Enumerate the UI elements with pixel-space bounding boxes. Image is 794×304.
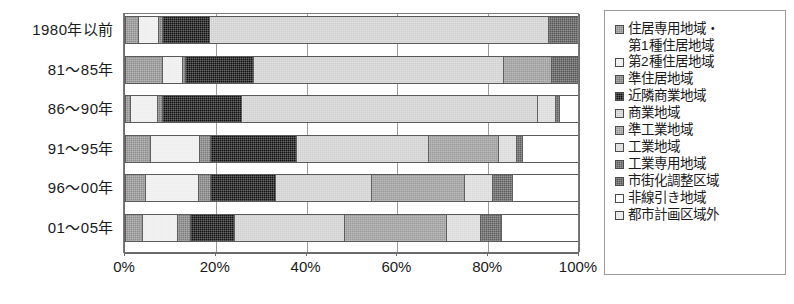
legend-item[interactable]: 住居専用地域・第1種住居地域 — [615, 21, 779, 54]
bar-segment[interactable] — [142, 215, 177, 241]
legend-swatch-p9 — [615, 194, 624, 203]
bar-segment[interactable] — [464, 175, 492, 201]
bar-segment[interactable] — [512, 175, 578, 201]
x-axis-tick — [215, 252, 216, 256]
legend-swatch-p4 — [615, 109, 624, 118]
bar-segment[interactable] — [130, 96, 157, 122]
legend-label: 都市計画区域外 — [628, 207, 719, 223]
bar-segment[interactable] — [480, 215, 501, 241]
bar-segment[interactable] — [548, 17, 578, 43]
bar-segment[interactable] — [253, 57, 503, 83]
legend-item[interactable]: 都市計画区域外 — [615, 207, 779, 223]
plot-area — [124, 14, 580, 252]
bar-segment[interactable] — [446, 215, 481, 241]
bar-segment[interactable] — [503, 57, 551, 83]
bar-segment[interactable] — [150, 136, 199, 162]
bar-segment[interactable] — [138, 17, 158, 43]
legend-item[interactable]: 市街化調整区域 — [615, 173, 779, 189]
bar-row[interactable] — [125, 16, 579, 44]
bar-segment[interactable] — [126, 57, 162, 83]
legend-swatch-p0 — [615, 25, 624, 34]
legend-label: 住居専用地域・ — [628, 21, 719, 37]
bar-segment[interactable] — [199, 136, 210, 162]
legend-label: 市街化調整区域 — [628, 173, 719, 189]
legend-label: 第2種住居地域 — [628, 54, 714, 70]
bar-segment[interactable] — [234, 215, 343, 241]
x-axis-tick — [306, 252, 307, 256]
bar-segment[interactable] — [559, 96, 578, 122]
bar-segment[interactable] — [177, 215, 190, 241]
bar-segment[interactable] — [162, 57, 182, 83]
bar-segment[interactable] — [162, 17, 209, 43]
legend-swatch-p2 — [615, 75, 624, 84]
bar-segment[interactable] — [501, 215, 578, 241]
legend-item[interactable]: 近隣商業地域 — [615, 88, 779, 104]
x-axis-tick-label: 60% — [381, 259, 411, 275]
bar-row[interactable] — [125, 214, 579, 242]
bar-row[interactable] — [125, 95, 579, 123]
legend-swatch-p5 — [615, 126, 624, 135]
x-axis-tick-label: 80% — [472, 259, 502, 275]
bar-segment[interactable] — [198, 175, 210, 201]
bar-segment[interactable] — [296, 136, 428, 162]
y-axis-label: 1980年以前 — [32, 22, 114, 37]
bar-segment[interactable] — [344, 215, 446, 241]
bar-segment[interactable] — [522, 136, 578, 162]
legend-item[interactable]: 非線引き地域 — [615, 190, 779, 206]
legend-item[interactable]: 準住居地域 — [615, 71, 779, 87]
bar-segment[interactable] — [428, 136, 498, 162]
legend-swatch-p6 — [615, 143, 624, 152]
x-axis-tick-label: 40% — [291, 259, 321, 275]
bar-segment[interactable] — [190, 215, 235, 241]
bar-segment[interactable] — [498, 136, 516, 162]
bar-segment[interactable] — [185, 57, 254, 83]
bar-segment[interactable] — [145, 175, 198, 201]
bar-segment[interactable] — [126, 136, 150, 162]
y-axis-label: 86～90年 — [48, 101, 114, 116]
y-axis-category-labels: 1980年以前81～85年86～90年91～95年96～00年01～05年 — [0, 14, 118, 252]
chart-root: 1980年以前81～85年86～90年91～95年96～00年01～05年 0%… — [0, 0, 794, 304]
bar-segment[interactable] — [162, 96, 242, 122]
legend-swatch-p10 — [615, 211, 624, 220]
legend-swatch-p7 — [615, 160, 624, 169]
x-axis-line — [124, 252, 578, 254]
legend-label: 工業地域 — [628, 139, 680, 155]
bar-segment[interactable] — [210, 136, 297, 162]
legend-label: 近隣商業地域 — [628, 88, 706, 104]
bar-segment[interactable] — [241, 96, 537, 122]
legend-item[interactable]: 商業地域 — [615, 105, 779, 121]
y-axis-label: 91～95年 — [48, 141, 114, 156]
legend-item[interactable]: 準工業地域 — [615, 122, 779, 138]
y-axis-label: 96～00年 — [48, 180, 114, 195]
bar-row[interactable] — [125, 56, 579, 84]
legend-item[interactable]: 工業専用地域 — [615, 156, 779, 172]
legend-label: 準工業地域 — [628, 122, 693, 138]
bar-segment[interactable] — [209, 17, 548, 43]
bar-row[interactable] — [125, 135, 579, 163]
y-axis-label: 81～85年 — [48, 62, 114, 77]
legend-label: 準住居地域 — [628, 71, 693, 87]
bar-segment[interactable] — [537, 96, 555, 122]
bar-segment[interactable] — [371, 175, 465, 201]
bar-segment[interactable] — [126, 17, 138, 43]
legend-swatch-p1 — [615, 58, 624, 67]
bar-segment[interactable] — [492, 175, 512, 201]
x-axis-tick — [124, 252, 125, 256]
legend-label: 非線引き地域 — [628, 190, 706, 206]
x-axis-tick — [487, 252, 488, 256]
bar-segment[interactable] — [126, 215, 142, 241]
x-axis-tick — [396, 252, 397, 256]
bar-segment[interactable] — [126, 175, 145, 201]
bar-segment[interactable] — [551, 57, 578, 83]
x-axis-tick-label: 0% — [113, 259, 135, 275]
bar-segment[interactable] — [275, 175, 370, 201]
bar-segment[interactable] — [210, 175, 276, 201]
legend-label: 工業専用地域 — [628, 156, 706, 172]
y-axis-label: 01～05年 — [48, 220, 114, 235]
legend-swatch-p8 — [615, 177, 624, 186]
legend-item[interactable]: 第2種住居地域 — [615, 54, 779, 70]
legend-item[interactable]: 工業地域 — [615, 139, 779, 155]
bar-row[interactable] — [125, 174, 579, 202]
bar-segment[interactable] — [516, 136, 523, 162]
legend: 住居専用地域・第1種住居地域第2種住居地域準住居地域近隣商業地域商業地域準工業地… — [604, 10, 786, 275]
